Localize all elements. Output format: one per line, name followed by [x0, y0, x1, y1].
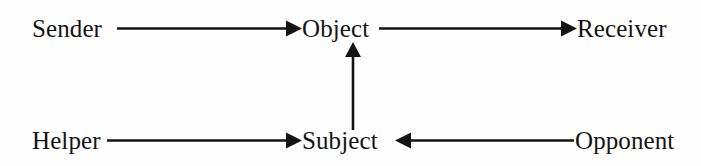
- arrowhead-up-into-object: [345, 42, 361, 57]
- edge-helper-to-subject: [107, 133, 302, 149]
- node-label-receiver: Receiver: [577, 16, 667, 41]
- arrowhead-left-into-subject: [395, 133, 411, 149]
- arrowhead-right-into-object: [286, 21, 302, 37]
- actantial-model-diagram: Sender Object Receiver Helper Subject Op…: [0, 0, 701, 166]
- node-label-subject: Subject: [302, 128, 378, 153]
- edge-sender-to-object: [117, 21, 302, 37]
- node-label-object: Object: [302, 16, 369, 41]
- node-label-opponent: Opponent: [575, 128, 674, 153]
- arrowhead-right-into-subject: [286, 133, 302, 149]
- edge-opponent-to-subject: [395, 133, 574, 149]
- node-label-helper: Helper: [32, 128, 101, 153]
- arrowhead-right-into-receiver: [561, 21, 577, 37]
- edge-object-to-receiver: [379, 21, 577, 37]
- edge-subject-to-object: [345, 42, 361, 130]
- node-label-sender: Sender: [32, 16, 102, 41]
